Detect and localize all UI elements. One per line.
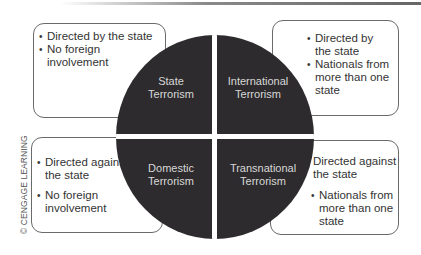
state-terrorism-label: State Terrorism [136, 75, 206, 101]
bullet: Nationals from more than one state [311, 189, 403, 228]
bullet: Nationals from more than one state [307, 58, 399, 97]
label-line: Terrorism [222, 175, 304, 188]
label-line: Terrorism [218, 88, 298, 101]
top-rule [60, 2, 421, 5]
bullet: No foreign involvement [39, 43, 127, 69]
label-line: State [136, 75, 206, 88]
label-line: Terrorism [136, 88, 206, 101]
domestic-terrorism-label: Domestic Terrorism [134, 162, 208, 188]
transnational-terrorism-label: Transnational Terrorism [222, 162, 304, 188]
copyright-credit: © CENGAGE LEARNING [19, 135, 29, 234]
horizontal-divider [116, 134, 314, 139]
label-line: Domestic [134, 162, 208, 175]
international-terrorism-label: International Terrorism [218, 75, 298, 101]
bullet: Directed by the state [307, 32, 385, 58]
bullet: Directed against the state [305, 155, 408, 181]
bullet: Directed by the state [39, 30, 157, 43]
label-line: Transnational [222, 162, 304, 175]
label-line: Terrorism [134, 175, 208, 188]
bullet: No foreign involvement [37, 189, 125, 215]
label-line: International [218, 75, 298, 88]
terrorism-types-circle [116, 35, 314, 239]
